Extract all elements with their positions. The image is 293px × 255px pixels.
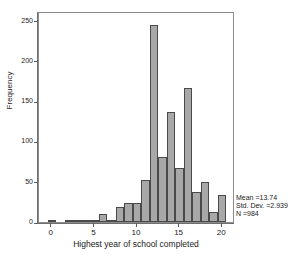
x-tick-mark — [93, 223, 94, 227]
histogram-figure: 050100150200250 Frequency 05101520 Highe… — [0, 0, 293, 255]
x-tick-label: 10 — [124, 228, 148, 237]
histogram-bar — [107, 220, 116, 222]
histogram-bar — [141, 180, 150, 222]
histogram-bar — [133, 203, 142, 222]
bars-layer — [39, 13, 233, 222]
histogram-bar — [158, 157, 167, 222]
x-tick-mark — [221, 223, 222, 227]
stat-std-dev: Std. Dev. =2.939 — [236, 202, 288, 210]
x-tick-label: 0 — [39, 228, 63, 237]
histogram-bar — [116, 207, 125, 222]
histogram-bar — [192, 192, 201, 222]
histogram-bar — [175, 168, 184, 222]
x-tick-label: 5 — [81, 228, 105, 237]
y-tick-label: 50 — [25, 178, 33, 186]
histogram-bar — [218, 195, 227, 222]
y-tick-label: 150 — [21, 97, 33, 105]
histogram-bar — [48, 220, 57, 222]
stat-mean: Mean =13.74 — [236, 194, 288, 202]
histogram-bar — [90, 220, 99, 222]
histogram-bar — [184, 88, 193, 222]
histogram-bar — [65, 220, 74, 222]
y-tick-label: 0 — [29, 218, 33, 226]
x-tick-mark — [50, 223, 51, 227]
x-tick-mark — [178, 223, 179, 227]
histogram-bar — [167, 112, 176, 222]
histogram-bar — [73, 220, 82, 222]
stat-n: N =984 — [236, 210, 288, 218]
plot-area — [38, 12, 234, 223]
histogram-bar — [99, 214, 108, 222]
x-tick-label: 15 — [167, 228, 191, 237]
histogram-bar — [124, 203, 133, 222]
histogram-bar — [201, 182, 210, 222]
histogram-bar — [150, 25, 159, 222]
histogram-bar — [82, 220, 91, 222]
x-tick-label: 20 — [209, 228, 233, 237]
statistics-annotation: Mean =13.74 Std. Dev. =2.939 N =984 — [236, 194, 288, 219]
y-axis-title: Frequency — [5, 56, 14, 126]
x-tick-mark — [136, 223, 137, 227]
y-tick-label: 100 — [21, 137, 33, 145]
x-axis-title: Highest year of school completed — [38, 239, 234, 249]
histogram-bar — [209, 212, 218, 222]
y-tick-label: 200 — [21, 57, 33, 65]
y-tick-label: 250 — [21, 17, 33, 25]
